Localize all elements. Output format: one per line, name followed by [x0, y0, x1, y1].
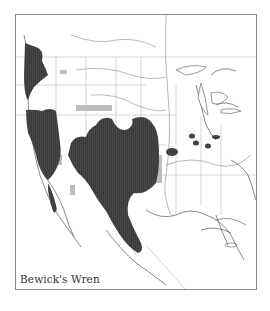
species-label: Bewick's Wren	[20, 273, 100, 285]
range-map: Bewick's Wren	[15, 14, 257, 290]
great-lakes	[176, 66, 241, 115]
range-map-canvas	[16, 15, 257, 290]
